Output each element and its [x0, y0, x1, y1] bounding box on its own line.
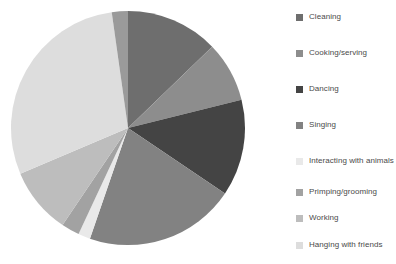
legend-item-label: Hanging with friends	[309, 240, 382, 251]
legend-item[interactable]: Primping/grooming	[296, 187, 396, 198]
legend-item[interactable]: Cooking/serving	[296, 48, 396, 59]
legend-swatch-icon	[296, 14, 303, 21]
legend-item[interactable]: Hanging with friends	[296, 240, 396, 251]
legend-item[interactable]: Dancing	[296, 84, 396, 95]
legend-item-label: Dancing	[309, 84, 339, 95]
legend-swatch-icon	[296, 122, 303, 129]
legend-item[interactable]: Singing	[296, 120, 396, 131]
legend-item-label: Cooking/serving	[309, 48, 367, 59]
chart-legend: CleaningCooking/servingDancingSingingInt…	[296, 6, 396, 258]
legend-item[interactable]: Cleaning	[296, 12, 396, 23]
legend-item-label: Singing	[309, 120, 336, 131]
legend-swatch-icon	[296, 189, 303, 196]
legend-swatch-icon	[296, 242, 303, 249]
legend-swatch-icon	[296, 158, 303, 165]
pie-chart-figure: CleaningCooking/servingDancingSingingInt…	[0, 0, 396, 264]
pie-svg	[10, 10, 246, 246]
legend-item[interactable]: Interacting with animals	[296, 156, 396, 167]
pie-slice-group	[11, 11, 245, 245]
legend-item-label: Working	[309, 213, 339, 224]
legend-item[interactable]: Working	[296, 213, 396, 224]
legend-swatch-icon	[296, 215, 303, 222]
legend-item-label: Cleaning	[309, 12, 341, 23]
legend-swatch-icon	[296, 86, 303, 93]
legend-item-label: Interacting with animals	[309, 156, 394, 167]
legend-swatch-icon	[296, 50, 303, 57]
pie-plot-area	[10, 10, 246, 246]
legend-item-label: Primping/grooming	[309, 187, 377, 198]
